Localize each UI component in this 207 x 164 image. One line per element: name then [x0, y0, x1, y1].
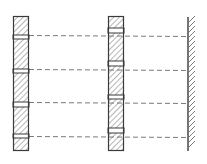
- fixed-wall: [188, 16, 195, 151]
- bar-gap: [108, 28, 124, 33]
- bar-gap: [13, 102, 29, 107]
- middle-bar: [108, 16, 124, 151]
- bar-gap: [108, 95, 124, 99]
- bar-gap: [108, 128, 124, 133]
- bar-gap: [108, 61, 124, 66]
- hatched-bars: [13, 16, 124, 151]
- bar-gap: [13, 69, 29, 73]
- mechanical-diagram: [0, 0, 207, 164]
- bar-gap: [13, 35, 29, 39]
- bar-gap: [13, 134, 29, 138]
- left-bar: [13, 16, 29, 151]
